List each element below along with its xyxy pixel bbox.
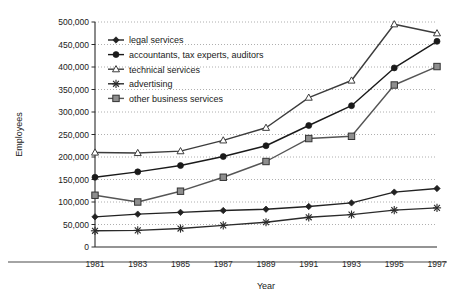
legend-item-1[interactable]: accountants, tax experts, auditors <box>108 50 264 60</box>
chart-canvas: 050,000100,000150,000200,000250,000300,0… <box>0 0 455 297</box>
data-point-circle <box>92 174 98 180</box>
data-point-asterisk <box>134 226 142 234</box>
y-tick-label: 200,000 <box>58 152 89 162</box>
data-point-square-open <box>177 188 183 194</box>
data-point-square-open <box>135 199 141 205</box>
y-tick-label: 350,000 <box>58 85 89 95</box>
data-point-triangle-open <box>391 21 398 27</box>
data-point-diamond <box>135 211 141 217</box>
data-point-square-open <box>434 63 440 69</box>
data-point-asterisk <box>433 204 441 212</box>
series-0 <box>92 185 440 220</box>
data-point-circle <box>306 123 312 129</box>
data-point-circle <box>220 154 226 160</box>
y-tick-label: 50,000 <box>63 220 89 230</box>
data-point-square-open <box>220 174 226 180</box>
data-point-diamond <box>113 37 119 43</box>
legend-item-3[interactable]: advertising <box>108 79 173 89</box>
chart-legend: legal servicesaccountants, tax experts, … <box>108 35 264 103</box>
data-point-asterisk <box>112 80 120 88</box>
legend-label: other business services <box>129 94 224 104</box>
x-tick-label: 1981 <box>86 259 105 269</box>
data-point-triangle-open <box>263 124 270 130</box>
y-tick-label: 500,000 <box>58 17 89 27</box>
x-tick-label: 1983 <box>128 259 147 269</box>
data-point-asterisk <box>390 206 398 214</box>
legend-item-2[interactable]: technical services <box>108 65 201 75</box>
data-point-asterisk <box>219 221 227 229</box>
y-axis-title: Employees <box>14 112 24 157</box>
x-axis-title: Year <box>257 281 275 291</box>
x-tick-label: 1991 <box>299 259 318 269</box>
legend-item-4[interactable]: other business services <box>108 94 224 104</box>
x-tick-label: 1997 <box>428 259 447 269</box>
data-point-square-open <box>263 158 269 164</box>
data-point-square-open <box>92 192 98 198</box>
legend-label: legal services <box>129 35 184 45</box>
y-tick-label: 0 <box>84 242 89 252</box>
x-tick-label: 1989 <box>257 259 276 269</box>
x-tick-label: 1987 <box>214 259 233 269</box>
data-point-circle <box>391 65 397 71</box>
y-tick-label: 100,000 <box>58 197 89 207</box>
legend-item-0[interactable]: legal services <box>108 35 184 45</box>
data-point-asterisk <box>262 218 270 226</box>
data-point-diamond <box>348 200 354 206</box>
data-point-circle <box>135 169 141 175</box>
y-tick-label: 300,000 <box>58 107 89 117</box>
data-point-circle <box>178 163 184 169</box>
x-tick-label: 1995 <box>385 259 404 269</box>
data-point-square-open <box>348 133 354 139</box>
y-tick-labels: 050,000100,000150,000200,000250,000300,0… <box>58 17 89 252</box>
x-tick-label: 1985 <box>171 259 190 269</box>
data-point-square-open <box>113 95 119 101</box>
data-point-asterisk <box>347 211 355 219</box>
data-point-diamond <box>391 189 397 195</box>
data-point-diamond <box>177 209 183 215</box>
y-tick-label: 400,000 <box>58 62 89 72</box>
data-point-square-open <box>391 82 397 88</box>
data-point-circle <box>434 38 440 44</box>
data-point-diamond <box>306 203 312 209</box>
y-tick-label: 150,000 <box>58 175 89 185</box>
legend-label: advertising <box>129 79 173 89</box>
data-point-diamond <box>434 185 440 191</box>
y-tick-label: 450,000 <box>58 40 89 50</box>
data-point-diamond <box>220 207 226 213</box>
data-point-asterisk <box>91 227 99 235</box>
data-point-diamond <box>263 206 269 212</box>
data-point-diamond <box>92 214 98 220</box>
data-point-circle <box>113 52 119 58</box>
data-point-square-open <box>306 135 312 141</box>
data-point-asterisk <box>305 213 313 221</box>
line-chart: 050,000100,000150,000200,000250,000300,0… <box>0 0 455 297</box>
legend-label: accountants, tax experts, auditors <box>129 50 264 60</box>
data-point-circle <box>263 143 269 149</box>
x-tick-label: 1993 <box>342 259 361 269</box>
x-tick-labels: 198119831985198719891991199319951997 <box>86 259 447 269</box>
data-point-asterisk <box>176 224 184 232</box>
legend-label: technical services <box>129 65 201 75</box>
y-tick-label: 250,000 <box>58 130 89 140</box>
data-point-circle <box>349 103 355 109</box>
